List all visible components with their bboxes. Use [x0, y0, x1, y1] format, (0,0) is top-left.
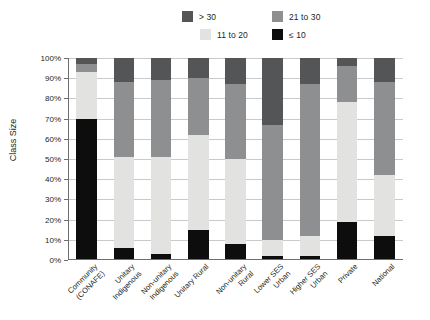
chart-legend: > 30 21 to 30 11 to 20 ≤ 10	[180, 11, 380, 51]
y-tick-mark	[64, 78, 68, 79]
legend-swatch-21-to-30	[272, 11, 283, 22]
legend-swatch-11-to-20	[200, 29, 211, 40]
y-tick-mark	[64, 220, 68, 221]
y-tick-mark	[64, 159, 68, 160]
legend-item-lte-10: ≤ 10	[272, 29, 306, 40]
y-tick-label: 50%	[45, 155, 61, 164]
y-tick-label: 100%	[41, 54, 61, 63]
y-tick-mark	[64, 179, 68, 180]
legend-label-lte-10: ≤ 10	[289, 30, 306, 40]
legend-swatch-gt-30	[182, 11, 193, 22]
plot-area: 0%10%20%30%40%50%60%70%80%90%100%	[68, 58, 403, 260]
x-axis-labels: Community (CONAFE)Unitary IndigenousNon-…	[68, 262, 403, 320]
y-tick-mark	[64, 139, 68, 140]
y-tick-label: 40%	[45, 175, 61, 184]
stacked-bar-chart: > 30 21 to 30 11 to 20 ≤ 10 Class Size 0…	[0, 0, 430, 320]
plot-frame	[68, 58, 403, 260]
y-axis-title: Class Size	[8, 105, 18, 175]
y-tick-label: 90%	[45, 74, 61, 83]
y-tick-mark	[64, 260, 68, 261]
legend-label-21-to-30: 21 to 30	[289, 12, 321, 22]
y-tick-label: 70%	[45, 114, 61, 123]
y-tick-mark	[64, 240, 68, 241]
y-tick-mark	[64, 58, 68, 59]
y-tick-label: 10%	[45, 235, 61, 244]
y-tick-label: 0%	[49, 256, 61, 265]
legend-item-gt-30: > 30	[182, 11, 216, 22]
legend-item-21-to-30: 21 to 30	[272, 11, 321, 22]
legend-label-gt-30: > 30	[199, 12, 216, 22]
y-tick-label: 20%	[45, 215, 61, 224]
y-tick-mark	[64, 119, 68, 120]
y-tick-mark	[64, 199, 68, 200]
y-tick-label: 30%	[45, 195, 61, 204]
legend-label-11-to-20: 11 to 20	[217, 30, 248, 40]
y-tick-label: 60%	[45, 134, 61, 143]
legend-swatch-lte-10	[272, 29, 283, 40]
y-tick-label: 80%	[45, 94, 61, 103]
legend-item-11-to-20: 11 to 20	[200, 29, 248, 40]
y-tick-mark	[64, 98, 68, 99]
